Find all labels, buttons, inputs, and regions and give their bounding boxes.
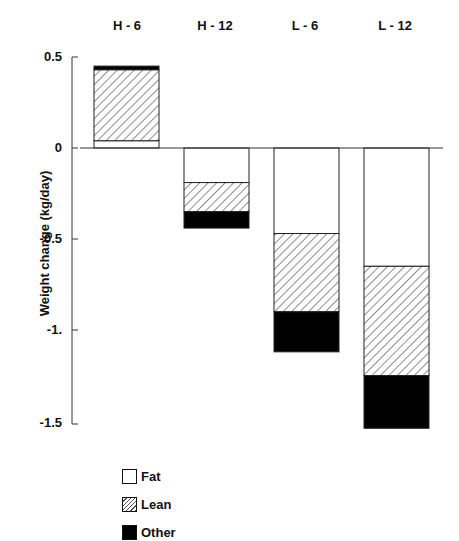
bars-group [94,66,429,428]
legend-item-lean: Lean [122,494,171,514]
legend-label: Other [141,525,176,540]
bar-segment-fat [94,141,159,148]
lean-swatch-icon [122,497,137,512]
legend-label: Fat [141,469,161,484]
bar-segment-other [184,212,249,228]
bar-segment-fat [274,148,339,234]
bar-segment-other [274,312,339,352]
bar-segment-other [94,66,159,70]
other-swatch-icon [122,525,137,540]
y-axis [72,57,78,424]
legend-item-other: Other [122,522,176,541]
bar-segment-lean [364,266,429,375]
bar-segment-fat [184,148,249,183]
legend-item-fat: Fat [122,466,161,486]
stacked-bar-chart: H - 6 H - 12 L - 6 L - 12 0.5 0 -0.5 -1.… [0,0,459,541]
legend-label: Lean [141,497,171,512]
bar-segment-fat [364,148,429,266]
plot-area [0,0,459,541]
bar-segment-other [364,376,429,429]
bar-segment-lean [94,70,159,141]
bar-segment-lean [274,234,339,312]
bar-segment-lean [184,183,249,212]
fat-swatch-icon [122,469,137,484]
